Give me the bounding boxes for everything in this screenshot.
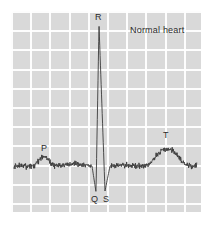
annotation-t-wave: T [163, 131, 169, 140]
annotation-s-wave: S [103, 195, 109, 204]
annotation-p-wave: P [41, 144, 47, 153]
annotation-r-wave: R [95, 13, 102, 22]
ecg-grid-panel: P R Q S T Normal heart [11, 11, 201, 212]
panel-title: Normal heart [130, 26, 184, 35]
ecg-figure: P R Q S T Normal heart [0, 0, 212, 232]
ecg-waveform-trace [11, 11, 201, 212]
ecg-waveform-path [14, 26, 197, 191]
annotation-q-wave: Q [91, 195, 98, 204]
